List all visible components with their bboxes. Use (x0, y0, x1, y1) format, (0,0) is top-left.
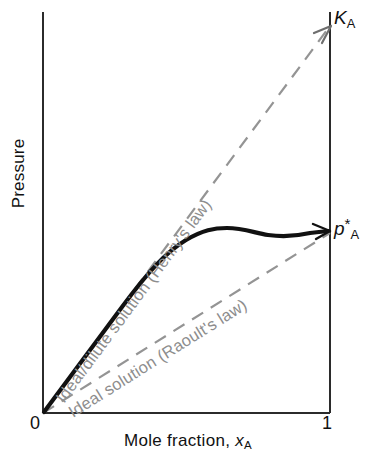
x-axis-label-subscript: A (244, 439, 252, 451)
pure-vapour-pressure-subscript: A (351, 227, 360, 242)
x-axis-label-prefix: Mole fraction, (124, 431, 235, 450)
pressure-vs-mole-fraction-figure: Ideal/dilute solution (Henry's law) Idea… (0, 0, 368, 465)
raoult-law-line-group (43, 233, 330, 413)
henry-constant-subscript: A (347, 16, 356, 31)
henry-constant-label: KA (334, 8, 355, 31)
x-axis-label-symbol: x (235, 431, 244, 450)
x-tick-label-1: 1 (322, 414, 332, 432)
x-axis-label: Mole fraction, xA (44, 432, 332, 452)
pure-vapour-pressure-label: p*A (334, 216, 359, 242)
y-axis-label: Pressure (10, 124, 27, 224)
pure-vapour-pressure-symbol: p (334, 218, 345, 239)
henry-constant-symbol: K (334, 7, 347, 28)
chart-canvas: Ideal/dilute solution (Henry's law) Idea… (0, 0, 368, 465)
x-tick-label-0: 0 (30, 414, 40, 432)
real-solution-curve-group (44, 224, 330, 412)
raoult-law-line (43, 233, 330, 413)
